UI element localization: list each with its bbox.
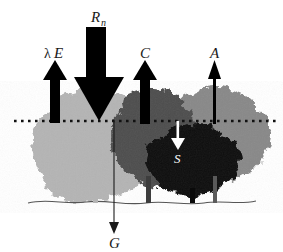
flux-diagram-figure: λ E R n C A S G (0, 0, 283, 252)
flux-label-C: C (140, 45, 151, 61)
flux-label-A: A (209, 45, 220, 61)
flux-label-lambdaE-lambda: λ (44, 46, 51, 61)
diagram-canvas: λ E R n C A S G (0, 0, 283, 252)
flux-label-G: G (109, 235, 120, 251)
flux-label-lambdaE-E: E (53, 45, 63, 61)
flux-label-S: S (174, 151, 181, 166)
flux-label-Rn-R: R (90, 9, 100, 25)
flux-label-Rn-subscript: n (101, 17, 106, 28)
